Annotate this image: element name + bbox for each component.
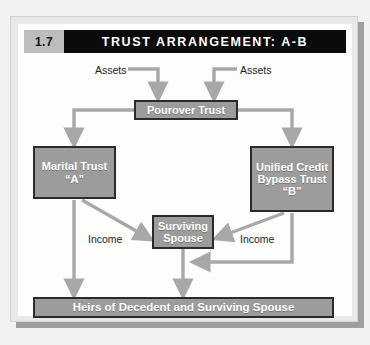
label-assets-left: Assets: [95, 64, 127, 76]
node-pourover-trust-label: Pourover Trust: [147, 104, 225, 116]
node-unified-credit-bypass-trust: Unified Credit Bypass Trust “B”: [250, 146, 334, 212]
node-unified-credit-bypass-trust-text: Unified Credit Bypass Trust “B”: [256, 161, 328, 198]
node-spouse-line1: Surviving: [158, 220, 208, 232]
figure-number: 1.7: [24, 30, 64, 53]
node-marital-trust: Marital Trust “A”: [33, 146, 116, 199]
node-bypass-line1: Unified Credit: [256, 161, 328, 173]
node-marital-trust-line2: “A”: [65, 173, 84, 185]
node-pourover-trust: Pourover Trust: [134, 100, 238, 120]
label-assets-right: Assets: [240, 64, 272, 76]
node-bypass-line2: Bypass Trust: [257, 173, 326, 185]
node-spouse-line2: Spouse: [163, 232, 203, 244]
node-marital-trust-text: Marital Trust “A”: [42, 160, 107, 185]
node-heirs: Heirs of Decedent and Surviving Spouse: [33, 297, 334, 318]
node-heirs-label: Heirs of Decedent and Surviving Spouse: [73, 301, 295, 314]
label-income-left: Income: [88, 233, 122, 245]
node-surviving-spouse-text: Surviving Spouse: [158, 220, 208, 245]
node-marital-trust-line1: Marital Trust: [42, 160, 107, 172]
node-bypass-line3: “B”: [283, 185, 302, 197]
figure-page: 1.7 TRUST ARRANGEMENT: A-B: [0, 0, 370, 345]
figure-title: TRUST ARRANGEMENT: A-B: [64, 30, 346, 53]
node-surviving-spouse: Surviving Spouse: [152, 215, 214, 249]
label-income-right: Income: [240, 233, 274, 245]
figure-header: 1.7 TRUST ARRANGEMENT: A-B: [24, 30, 346, 53]
